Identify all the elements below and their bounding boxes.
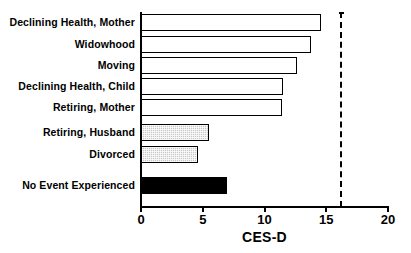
bar-rect: [141, 146, 198, 163]
category-label-0: Declining Health, Mother: [10, 17, 136, 28]
bar-divorced: [141, 146, 198, 163]
category-label-5: Retiring, Husband: [43, 127, 135, 138]
x-tick-label-0: 0: [121, 212, 161, 227]
reference-line-cap: [339, 12, 344, 14]
bar-declining-health-child: [141, 78, 283, 95]
bar-chart: Declining Health, MotherWidowhoodMovingD…: [0, 0, 411, 253]
bar-retiring-mother: [141, 99, 282, 116]
x-axis-title: CES-D: [0, 229, 411, 245]
category-label-6: Divorced: [89, 149, 135, 160]
category-label-1: Widowhood: [75, 39, 135, 50]
category-label-4: Retiring, Mother: [53, 102, 135, 113]
x-tick-label-20: 20: [368, 212, 408, 227]
x-tick-label-10: 10: [245, 212, 285, 227]
bar-rect: [141, 124, 209, 141]
category-label-7: No Event Experienced: [22, 180, 135, 191]
bar-widowhood: [141, 36, 311, 53]
x-tick-label-5: 5: [183, 212, 223, 227]
bar-rect: [141, 36, 311, 53]
reference-dashed-line: [340, 12, 342, 207]
category-label-2: Moving: [98, 60, 135, 71]
bar-rect: [141, 177, 227, 194]
bar-rect: [141, 78, 283, 95]
bar-rect: [141, 14, 321, 31]
bar-moving: [141, 57, 297, 74]
x-tick-label-15: 15: [306, 212, 346, 227]
bar-declining-health-mother: [141, 14, 321, 31]
category-label-3: Declining Health, Child: [18, 81, 135, 92]
x-axis-title-label: CES-D: [242, 229, 287, 245]
bar-rect: [141, 57, 297, 74]
bar-retiring-husband: [141, 124, 209, 141]
bar-no-event-experienced: [141, 177, 227, 194]
bar-rect: [141, 99, 282, 116]
